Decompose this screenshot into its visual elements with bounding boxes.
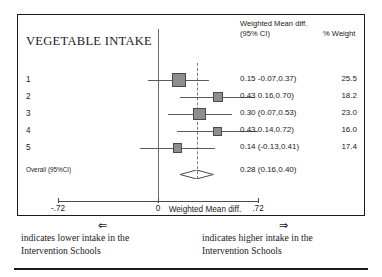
study-label: 5 xyxy=(26,143,31,152)
footer-right: ⇒ indicates higher intake in the Interve… xyxy=(184,220,365,264)
effect-estimate-box xyxy=(172,73,186,87)
study-weight-text: 23.0 xyxy=(323,108,357,117)
forest-plot-frame: Weighted Mean diff. (95% CI) % Weight VE… xyxy=(17,14,365,216)
effect-estimate-box xyxy=(193,108,206,121)
study-row: 20.43 0.16,0.70)18.2 xyxy=(18,89,364,106)
footer-left-line1: indicates lower intake in the xyxy=(21,232,184,245)
overall-estimate-text: 0.28 (0.16,0.40) xyxy=(240,165,296,174)
right-arrow-icon: ⇒ xyxy=(202,220,365,231)
study-weight-text: 16.0 xyxy=(323,125,357,134)
study-row: 50.14 (-0.13,0.41)17.4 xyxy=(18,140,364,157)
study-label: 3 xyxy=(26,109,31,118)
study-label: 4 xyxy=(26,126,31,135)
footer-legend: ⇐ indicates lower intake in the Interven… xyxy=(17,220,365,264)
x-axis-title: Weighted Mean diff. xyxy=(125,205,285,214)
left-arrow-icon: ⇐ xyxy=(21,220,184,231)
study-row: 10.15 -0.07,0.37)25.5 xyxy=(18,72,364,89)
plot-canvas: 10.15 -0.07,0.37)25.520.43 0.16,0.70)18.… xyxy=(18,15,364,215)
effect-estimate-box xyxy=(213,92,223,102)
footer-right-line1: indicates higher intake in the xyxy=(202,232,365,245)
overall-row: Overall (95%CI) 0.28 (0.16,0.40) xyxy=(18,161,364,181)
study-weight-text: 25.5 xyxy=(323,74,357,83)
axis-tick xyxy=(258,198,259,203)
axis-tick-label: -.72 xyxy=(51,204,65,213)
study-estimate-text: 0.43 0.14,0.72) xyxy=(240,125,294,134)
study-estimate-text: 0.43 0.16,0.70) xyxy=(240,91,294,100)
axis-tick xyxy=(58,198,59,203)
study-label: 2 xyxy=(26,92,31,101)
pooled-diamond xyxy=(180,165,213,174)
effect-estimate-box xyxy=(213,127,222,136)
footer-left-line2: Intervention Schools xyxy=(21,245,184,258)
bottom-rule xyxy=(14,268,368,270)
study-row: 40.43 0.14,0.72)16.0 xyxy=(18,123,364,140)
study-estimate-text: 0.15 -0.07,0.37) xyxy=(240,74,296,83)
footer-left: ⇐ indicates lower intake in the Interven… xyxy=(17,220,184,264)
study-weight-text: 18.2 xyxy=(323,91,357,100)
axis-tick xyxy=(158,198,159,203)
study-estimate-text: 0.30 (0.07,0.53) xyxy=(240,108,296,117)
study-row: 30.30 (0.07,0.53)23.0 xyxy=(18,106,364,123)
footer-right-line2: Intervention Schools xyxy=(202,245,365,258)
effect-estimate-box xyxy=(173,143,183,153)
study-weight-text: 17.4 xyxy=(323,142,357,151)
study-label: 1 xyxy=(26,75,31,84)
overall-label: Overall (95%CI) xyxy=(26,165,71,174)
study-estimate-text: 0.14 (-0.13,0.41) xyxy=(240,142,299,151)
